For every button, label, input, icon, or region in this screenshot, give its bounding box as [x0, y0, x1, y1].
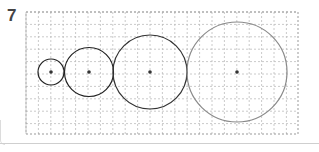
circles-diagram: [0, 0, 319, 152]
circle-center-dot: [148, 70, 152, 74]
circle-center-dot: [235, 70, 239, 74]
circle-center-dot: [87, 70, 91, 74]
card-border-bottom: [0, 143, 319, 144]
card-border-left: [0, 120, 5, 145]
circle-center-dot: [49, 70, 53, 74]
